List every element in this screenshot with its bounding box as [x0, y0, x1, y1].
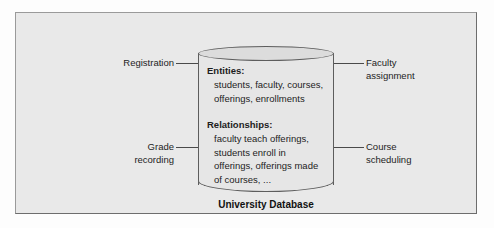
section-spacer	[207, 105, 325, 112]
connector-line-grade-recording	[176, 147, 199, 148]
callout-label-registration: Registration	[94, 57, 174, 70]
relationships-heading: Relationships:	[207, 118, 325, 132]
entities-list: students, faculty, courses, offerings, e…	[207, 78, 325, 105]
relationships-list: faculty teach offerings, students enroll…	[207, 132, 325, 186]
entities-heading: Entities:	[207, 64, 325, 78]
callout-label-faculty-assignment: Faculty assignment	[366, 57, 461, 82]
diagram-canvas: Registration Grade recording Faculty ass…	[0, 0, 494, 228]
database-cylinder-icon: Entities: students, faculty, courses, of…	[198, 46, 334, 192]
diagram-frame: Registration Grade recording Faculty ass…	[15, 12, 477, 214]
callout-label-grade-recording: Grade recording	[94, 141, 174, 166]
cylinder-content: Entities: students, faculty, courses, of…	[198, 58, 334, 186]
diagram-caption: University Database	[166, 199, 366, 210]
connector-line-course-scheduling	[334, 147, 364, 148]
connector-line-registration	[176, 63, 199, 64]
connector-line-faculty-assignment	[334, 63, 364, 64]
callout-label-course-scheduling: Course scheduling	[366, 141, 461, 166]
